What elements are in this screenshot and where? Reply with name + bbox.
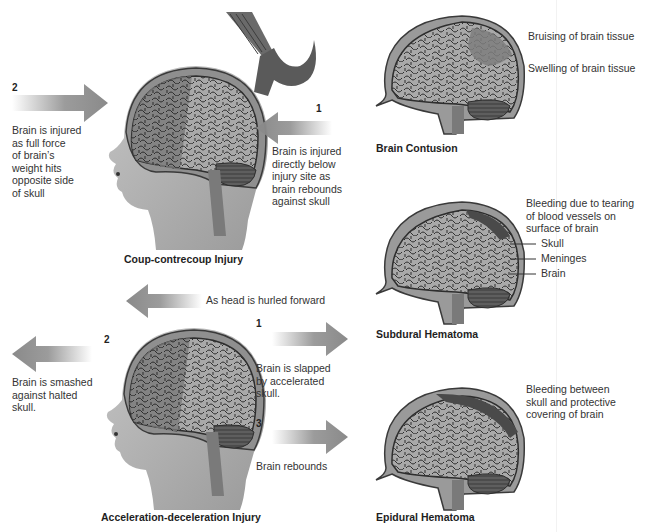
arrow-right-icon [272, 322, 348, 356]
label-leader-lines [510, 240, 540, 280]
epidural-brain-illustration [376, 386, 526, 510]
subdural-brain-illustration [376, 200, 526, 324]
accel-step3-text: Brain rebounds [256, 460, 327, 473]
arrow-right-icon [12, 84, 112, 122]
step-number-3: 3 [256, 418, 262, 429]
contusion-notes: Bruising of brain tissue Swelling of bra… [528, 12, 635, 92]
note-bruising: Bruising of brain tissue [528, 28, 635, 44]
arrow-right-icon [272, 420, 348, 454]
arrow-left-icon [256, 112, 332, 144]
coup-step2-text: Brain is injured as full force of brain’… [12, 124, 81, 200]
panel-title: Brain Contusion [376, 142, 458, 154]
head-profile-icon [94, 324, 274, 510]
head-profile-icon [96, 60, 276, 250]
step-number-2: 2 [104, 334, 110, 345]
coup-step1-text: Brain is injured directly below injury s… [272, 145, 342, 208]
arrow-left-icon [12, 336, 92, 372]
label-brain: Brain [541, 267, 566, 280]
step-number-1: 1 [256, 318, 262, 329]
panel-title: Epidural Hematoma [376, 511, 475, 523]
epidural-description: Bleeding between skull and protective co… [526, 383, 616, 421]
label-skull: Skull [541, 237, 564, 250]
hurled-forward-text: As head is hurled forward [206, 294, 325, 307]
accel-step2-text: Brain is smashed against halted skull. [12, 376, 93, 414]
label-meninges: Meninges [541, 252, 587, 265]
subdural-description: Bleeding due to tearing of blood vessels… [526, 197, 634, 235]
panel-title: Subdural Hematoma [376, 328, 478, 340]
brain-contusion-illustration [376, 14, 526, 134]
panel-title: Coup-contrecoup Injury [124, 253, 243, 265]
note-swelling: Swelling of brain tissue [528, 60, 635, 76]
accel-step1-text: Brain is slapped by accelerated skull. [256, 362, 331, 400]
arrow-left-icon [126, 284, 202, 318]
panel-title: Acceleration-deceleration Injury [101, 511, 261, 523]
